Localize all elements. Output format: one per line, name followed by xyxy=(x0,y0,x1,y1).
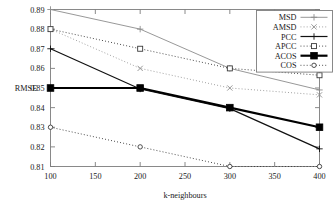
rmse-vs-k-neighbours-line-chart: 0.810.820.830.840.850.860.870.880.891001… xyxy=(0,0,333,205)
series-acos xyxy=(47,85,323,131)
series-marker-apcc xyxy=(48,27,53,32)
y-tick-label: 0.82 xyxy=(30,143,44,152)
legend-swatch-marker-apcc xyxy=(312,44,317,49)
x-tick-label: 300 xyxy=(224,172,236,181)
y-axis-title: RMSE xyxy=(15,84,37,93)
x-tick-label: 150 xyxy=(89,172,101,181)
legend-swatch-marker-cos xyxy=(312,63,316,67)
legend-label-msd: MSD xyxy=(279,13,297,22)
x-tick-label: 100 xyxy=(44,172,56,181)
series-marker-apcc xyxy=(138,46,143,51)
legend-swatch-marker-acos xyxy=(311,52,318,59)
y-tick-label: 0.83 xyxy=(30,123,44,132)
series-marker-apcc xyxy=(227,66,232,71)
series-line-acos xyxy=(51,88,320,127)
series-marker-acos xyxy=(47,85,54,92)
series-marker-pcc xyxy=(47,46,53,52)
series-marker-msd xyxy=(137,26,143,32)
series-marker-acos xyxy=(227,104,234,111)
y-tick-label: 0.87 xyxy=(30,45,44,54)
series-line-cos xyxy=(51,127,320,166)
x-tick-label: 400 xyxy=(313,172,325,181)
legend-label-cos: COS xyxy=(281,61,297,70)
series-marker-msd xyxy=(47,6,53,12)
legend-label-apcc: APCC xyxy=(275,42,297,51)
series-marker-cos xyxy=(48,125,52,129)
legend-label-amsd: AMSD xyxy=(273,23,297,32)
series-marker-cos xyxy=(138,145,142,149)
y-tick-label: 0.86 xyxy=(30,64,44,73)
x-tick-label: 200 xyxy=(134,172,146,181)
series-marker-amsd xyxy=(227,85,232,90)
series-marker-acos xyxy=(316,124,323,131)
y-tick-label: 0.88 xyxy=(30,25,44,34)
x-tick-label: 250 xyxy=(179,172,191,181)
x-axis-title: k-neighbours xyxy=(163,191,206,200)
legend-label-pcc: PCC xyxy=(281,33,297,42)
series-marker-acos xyxy=(137,85,144,92)
chart-container: 0.810.820.830.840.850.860.870.880.891001… xyxy=(0,0,333,205)
series-marker-apcc xyxy=(317,73,322,78)
legend-label-acos: ACOS xyxy=(275,52,297,61)
x-tick-label: 350 xyxy=(269,172,281,181)
y-tick-label: 0.81 xyxy=(30,163,44,172)
series-marker-cos xyxy=(317,164,321,168)
y-tick-label: 0.89 xyxy=(30,6,44,15)
y-tick-label: 0.84 xyxy=(30,104,44,113)
series-marker-cos xyxy=(228,164,232,168)
legend: MSDAMSDPCCAPCCACOSCOS xyxy=(257,11,333,73)
